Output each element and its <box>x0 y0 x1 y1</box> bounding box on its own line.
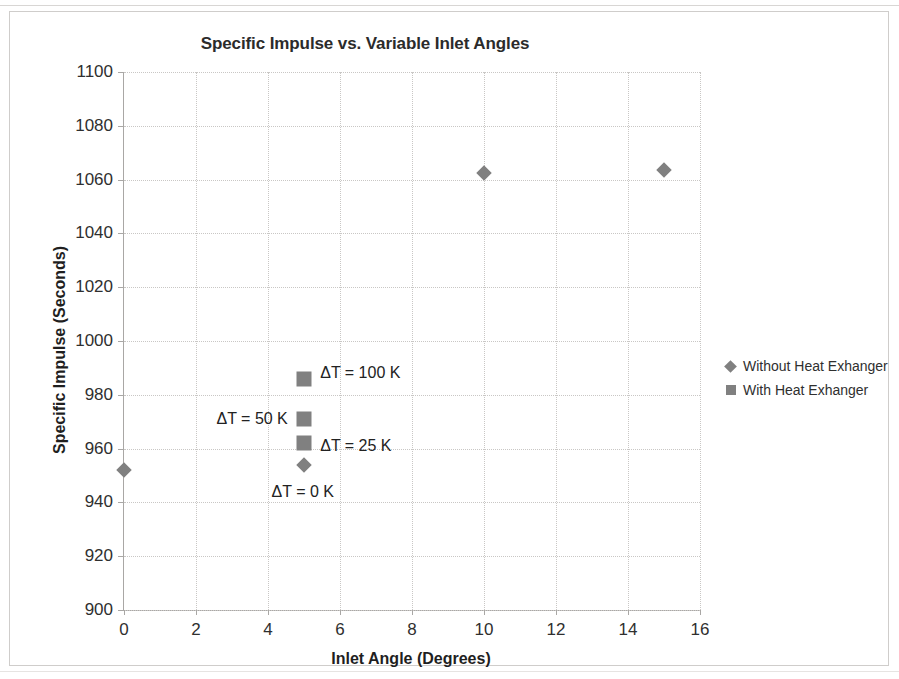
x-axis-title: Inlet Angle (Degrees) <box>123 650 699 668</box>
x-axis-tick <box>340 610 341 615</box>
y-axis-tick <box>118 233 124 234</box>
y-axis-tick-label: 1040 <box>75 223 113 243</box>
gridline-vertical <box>700 72 701 610</box>
y-axis-tick <box>118 180 124 181</box>
data-annotation-label: ΔT = 50 K <box>216 410 287 428</box>
y-axis-tick-label: 1020 <box>75 277 113 297</box>
data-annotation-label: ΔT = 100 K <box>320 364 400 382</box>
x-axis-tick-label: 6 <box>335 620 344 640</box>
x-axis-tick <box>700 610 701 615</box>
y-axis-tick-label: 920 <box>85 546 113 566</box>
data-point-marker[interactable] <box>656 162 672 178</box>
legend-item[interactable]: With Heat Exhanger <box>726 378 888 402</box>
y-axis-tick <box>118 72 124 73</box>
x-axis-tick-label: 8 <box>407 620 416 640</box>
chart-legend: Without Heat ExhangerWith Heat Exhanger <box>726 354 888 402</box>
legend-diamond-icon <box>724 360 737 373</box>
y-axis-tick <box>118 395 124 396</box>
data-point-marker[interactable] <box>297 412 312 427</box>
x-axis-tick-label: 2 <box>191 620 200 640</box>
gridline-vertical <box>340 72 341 610</box>
y-axis-tick-label: 980 <box>85 385 113 405</box>
x-axis-tick <box>628 610 629 615</box>
x-axis-tick <box>196 610 197 615</box>
gridline-vertical <box>484 72 485 610</box>
y-axis-tick <box>118 449 124 450</box>
x-axis-tick <box>556 610 557 615</box>
x-axis-tick <box>124 610 125 615</box>
y-axis-tick <box>118 556 124 557</box>
chart-title: Specific Impulse vs. Variable Inlet Angl… <box>10 34 720 54</box>
scan-artifact-line-top <box>0 5 899 6</box>
data-point-marker[interactable] <box>296 457 312 473</box>
data-annotation-label: ΔT = 25 K <box>320 437 391 455</box>
y-axis-tick-label: 1060 <box>75 170 113 190</box>
y-axis-tick-label: 960 <box>85 439 113 459</box>
data-point-marker[interactable] <box>297 436 312 451</box>
data-annotation-label: ΔT = 0 K <box>272 483 334 501</box>
gridline-vertical <box>628 72 629 610</box>
legend-item[interactable]: Without Heat Exhanger <box>726 354 888 378</box>
y-axis-tick-label: 1000 <box>75 331 113 351</box>
gridline-vertical <box>268 72 269 610</box>
x-axis-tick-label: 12 <box>547 620 566 640</box>
y-axis-tick <box>118 287 124 288</box>
y-axis-tick-label: 1080 <box>75 116 113 136</box>
chart-frame: Specific Impulse vs. Variable Inlet Angl… <box>9 11 889 666</box>
plot-area: 9009209409609801000102010401060108011000… <box>123 72 700 611</box>
x-axis-tick <box>412 610 413 615</box>
x-axis-tick-label: 14 <box>619 620 638 640</box>
x-axis-tick-label: 16 <box>691 620 710 640</box>
legend-item-label: Without Heat Exhanger <box>743 358 888 374</box>
x-axis-tick <box>484 610 485 615</box>
y-axis-tick-label: 1100 <box>76 62 113 82</box>
y-axis-tick <box>118 341 124 342</box>
y-axis-tick-label: 900 <box>85 600 113 620</box>
gridline-vertical <box>412 72 413 610</box>
legend-item-label: With Heat Exhanger <box>743 382 868 398</box>
scan-artifact-line-bottom <box>0 671 899 672</box>
x-axis-tick-label: 4 <box>263 620 272 640</box>
y-axis-tick-label: 940 <box>85 492 113 512</box>
data-point-marker[interactable] <box>476 165 492 181</box>
x-axis-tick <box>268 610 269 615</box>
y-axis-tick <box>118 126 124 127</box>
data-point-marker[interactable] <box>116 462 132 478</box>
gridline-vertical <box>556 72 557 610</box>
legend-square-icon <box>726 385 736 395</box>
x-axis-tick-label: 0 <box>119 620 128 640</box>
data-point-marker[interactable] <box>297 371 312 386</box>
x-axis-tick-label: 10 <box>475 620 494 640</box>
gridline-vertical <box>196 72 197 610</box>
y-axis-tick <box>118 502 124 503</box>
y-axis-title: Specific Impulse (Seconds) <box>51 200 69 500</box>
